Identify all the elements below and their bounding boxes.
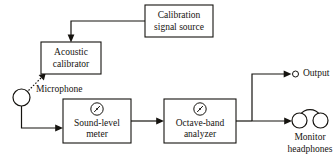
octave-band-analyzer-label-line2: analyzer: [184, 129, 217, 139]
wire-junction-to-headphones: [252, 118, 292, 125]
monitor-headphones-label-line2: headphones: [288, 144, 333, 154]
calibration-signal-source-label-line2: signal source: [154, 22, 204, 32]
output-terminal-symbol[interactable]: [293, 71, 299, 77]
wire-meter-to-analyzer: [131, 118, 164, 125]
output-terminal-circle-icon[interactable]: [293, 71, 299, 77]
meter-gauge-icon: [194, 103, 206, 115]
octave-band-analyzer-label-line1: Octave-band: [176, 118, 225, 128]
microphone-symbol[interactable]: [13, 89, 30, 106]
output-label: Output: [303, 68, 330, 78]
wire-junction-to-output: [252, 71, 292, 121]
calibration-signal-source-label-line1: Calibration: [158, 10, 201, 20]
diagram-canvas: Calibration signal source Acoustic calib…: [0, 0, 334, 158]
block-octave-band-analyzer[interactable]: Octave-band analyzer: [164, 99, 236, 143]
meter-gauge-icon: [91, 103, 103, 115]
sound-level-meter-label-line1: Sound-level: [74, 118, 120, 128]
wire-calibration-to-calibrator: [68, 21, 145, 43]
sound-level-meter-label-line2: meter: [86, 129, 108, 139]
block-calibration-signal-source[interactable]: Calibration signal source: [145, 5, 213, 37]
wire-microphone-to-sound-level-meter: [22, 106, 64, 131]
block-sound-level-meter[interactable]: Sound-level meter: [63, 99, 131, 143]
monitor-headphones-icon[interactable]: [292, 110, 328, 128]
microphone-label: Microphone: [36, 84, 82, 94]
block-acoustic-calibrator[interactable]: Acoustic calibrator: [41, 42, 101, 74]
microphone-circle-icon[interactable]: [13, 89, 30, 106]
acoustic-calibrator-label-line2: calibrator: [53, 59, 90, 69]
block-diagram-figure: Calibration signal source Acoustic calib…: [0, 0, 334, 158]
acoustic-calibrator-label-line1: Acoustic: [54, 47, 88, 57]
monitor-headphones-label-line1: Monitor: [294, 132, 326, 142]
